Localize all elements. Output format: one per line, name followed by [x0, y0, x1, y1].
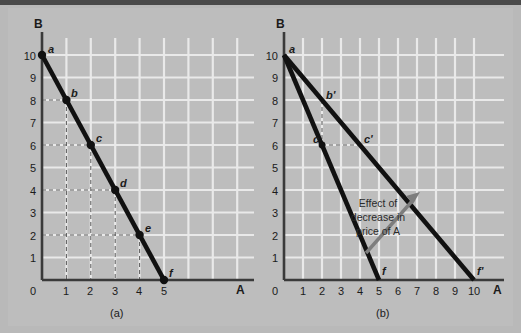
panel-b-point-label-f: f	[382, 266, 386, 277]
effect-annotation-line-3: price of A	[337, 226, 419, 237]
panel-a-xtick-2: 2	[82, 286, 98, 297]
point-b	[62, 96, 70, 104]
panel-a-ytick-7: 7	[16, 118, 36, 129]
effect-annotation-line-1: Effect of	[340, 198, 416, 209]
panel-a-ytick-1: 1	[16, 253, 36, 264]
panel-b-point-label-f-prime: f'	[477, 266, 483, 277]
panel-b-ytick-4: 4	[258, 186, 278, 197]
panel-b-point-label-c-prime: c'	[364, 134, 373, 145]
panel-a-xtick-4: 4	[131, 286, 147, 297]
panel-b-xtick-7: 7	[409, 286, 425, 297]
panel-a: 10 9 8 7 6 5 4 3 2 1 0 1 2 3 4 5 B A a b…	[14, 8, 264, 326]
panel-b-ytick-6: 6	[258, 141, 278, 152]
data-points-b	[319, 142, 326, 149]
panel-b-xtick-4: 4	[352, 286, 368, 297]
panel-b-xtick-6: 6	[390, 286, 406, 297]
axes-b	[284, 32, 504, 280]
panel-b-ytick-3: 3	[258, 208, 278, 219]
panel-b-plot	[256, 8, 512, 326]
effect-annotation-line-2: decrease in	[334, 212, 422, 223]
panel-a-xtick-5: 5	[156, 286, 172, 297]
panel-a-point-label-d: d	[120, 178, 127, 189]
panel-a-ytick-3: 3	[16, 208, 36, 219]
panel-a-point-label-f: f	[169, 268, 173, 279]
panel-a-point-label-e: e	[145, 223, 151, 234]
panel-b-ytick-7: 7	[258, 118, 278, 129]
point-c	[87, 141, 95, 149]
panel-b-ytick-5: 5	[258, 163, 278, 174]
panel-a-svg	[14, 8, 264, 326]
axes-a	[42, 32, 254, 280]
panel-b: 10 9 8 7 6 5 4 3 2 1 0 1 2 3 4 5 6 7 8 9…	[256, 8, 506, 326]
panel-b-xtick-10: 10	[465, 286, 483, 297]
grid-lines-b	[284, 38, 504, 280]
panel-b-point-label-c: c	[313, 134, 319, 145]
point-a	[38, 51, 46, 59]
grid-lines-a	[42, 38, 254, 280]
panel-b-caption: (b)	[376, 308, 389, 319]
panel-a-ytick-5: 5	[16, 163, 36, 174]
panel-a-ytick-6: 6	[16, 141, 36, 152]
top-border-bar	[0, 0, 521, 5]
panel-a-ytick-2: 2	[16, 231, 36, 242]
panel-b-ytick-9: 9	[258, 73, 278, 84]
panel-a-point-label-b: b	[71, 88, 78, 99]
panel-b-xtick-2: 2	[314, 286, 330, 297]
panel-a-point-label-a: a	[48, 44, 54, 55]
panel-b-ytick-0: 0	[258, 286, 278, 297]
panel-a-point-label-c: c	[96, 133, 102, 144]
panel-a-xaxis-label: A	[236, 284, 245, 296]
panel-b-xtick-5: 5	[371, 286, 387, 297]
panel-a-ytick-0: 0	[16, 286, 36, 297]
panel-b-yaxis-label: B	[276, 18, 285, 30]
figure-plate: 10 9 8 7 6 5 4 3 2 1 0 1 2 3 4 5 B A a b…	[8, 8, 513, 326]
panel-a-plot	[14, 8, 264, 326]
panel-b-xtick-3: 3	[333, 286, 349, 297]
point-f	[160, 276, 168, 284]
panel-b-point-label-b-prime: b'	[326, 90, 335, 101]
figure-page: 10 9 8 7 6 5 4 3 2 1 0 1 2 3 4 5 B A a b…	[0, 0, 521, 333]
panel-a-xtick-1: 1	[58, 286, 74, 297]
panel-a-ytick-4: 4	[16, 186, 36, 197]
panel-b-ytick-8: 8	[258, 96, 278, 107]
panel-b-xtick-8: 8	[428, 286, 444, 297]
panel-b-ytick-10: 10	[258, 51, 278, 62]
panel-b-point-label-a: a	[289, 44, 295, 55]
panel-b-svg	[256, 8, 512, 326]
point-e	[135, 231, 143, 239]
panel-a-yaxis-label: B	[34, 18, 43, 30]
point-c	[319, 142, 326, 149]
panel-a-caption: (a)	[110, 308, 123, 319]
panel-a-xtick-3: 3	[107, 286, 123, 297]
panel-a-ytick-10: 10	[16, 51, 36, 62]
panel-b-xtick-9: 9	[447, 286, 463, 297]
panel-b-xtick-1: 1	[295, 286, 311, 297]
panel-b-ytick-1: 1	[258, 253, 278, 264]
panel-b-ytick-2: 2	[258, 231, 278, 242]
point-d	[111, 186, 119, 194]
panel-a-ytick-8: 8	[16, 96, 36, 107]
panel-b-xaxis-label: A	[493, 284, 502, 296]
panel-a-ytick-9: 9	[16, 73, 36, 84]
